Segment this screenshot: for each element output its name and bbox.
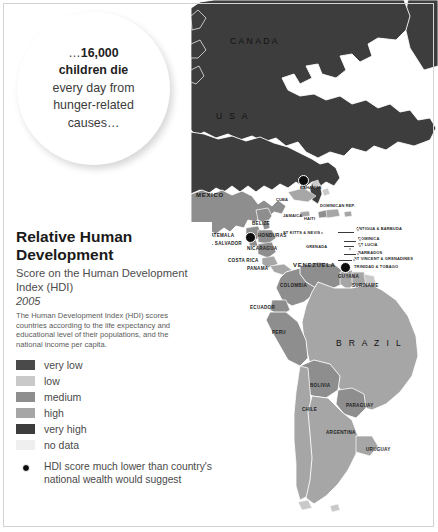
island-marker-st-kitts <box>320 231 324 235</box>
legend-label-low: low <box>44 376 60 387</box>
legend-label-very-high: very high <box>44 424 87 435</box>
country-puerto-rico <box>344 211 352 217</box>
panel-subtitle: Score on the Human Development Index (HD… <box>16 266 191 294</box>
black-dot-icon <box>22 464 30 472</box>
legend-label-medium: medium <box>44 392 81 403</box>
leader-line-dominica <box>344 241 356 242</box>
callout-line4: hunger-related <box>53 98 134 112</box>
panel-description: The Human Development Index (HDI) scores… <box>16 311 192 349</box>
callout-bubble: …16,000 children die every day from hung… <box>17 12 170 165</box>
legend-swatch-very-low <box>16 360 35 370</box>
legend-label-very-low: very low <box>44 360 83 371</box>
island-marker-st-vincent <box>352 258 356 262</box>
page-title: Relative Human Development <box>16 228 166 264</box>
island-marker-grenada <box>348 247 352 251</box>
hdi-marker-cuba <box>298 175 309 186</box>
legend-panel: Relative Human Development Score on the … <box>4 228 214 487</box>
legend-swatch-medium <box>16 392 35 402</box>
callout-ellipsis-prefix: … <box>68 46 80 60</box>
legend-label-high: high <box>44 408 64 419</box>
legend-item-no-data: no data <box>16 438 214 452</box>
legend-swatch-high <box>16 408 35 418</box>
country-jamaica <box>300 211 310 217</box>
legend-item-medium: medium <box>16 390 214 404</box>
legend-note-text: HDI score much lower than country's nati… <box>44 461 214 486</box>
hdi-marker-guatemala <box>245 232 256 243</box>
leader-line-barbados <box>344 254 356 255</box>
callout-number: 16,000 <box>81 46 119 60</box>
legend-item-very-low: very low <box>16 358 214 372</box>
island-marker-st-lucia <box>358 244 362 248</box>
legend-note-row: HDI score much lower than country's nati… <box>16 461 214 486</box>
island-marker-barbados <box>356 252 360 256</box>
callout-line5: causes… <box>68 116 120 130</box>
legend-swatch-very-high <box>16 424 35 434</box>
legend-item-low: low <box>16 374 214 388</box>
legend-swatch-low <box>16 376 35 386</box>
legend-label-no-data: no data <box>44 440 79 451</box>
legend-note-marker-wrap <box>16 461 35 472</box>
legend-item-very-high: very high <box>16 422 214 436</box>
hdi-marker-trinidad-tobago <box>340 262 351 273</box>
callout-bubble-text: …16,000 children die every day from hung… <box>25 45 163 133</box>
callout-line2: children die <box>59 63 129 77</box>
leader-line-antigua <box>338 232 354 233</box>
legend-item-high: high <box>16 406 214 420</box>
legend-swatch-no-data <box>16 440 35 450</box>
callout-line3: every day from <box>53 81 135 95</box>
panel-year: 2005 <box>16 295 214 307</box>
leader-line-st-vincent <box>338 260 352 261</box>
island-marker-antigua <box>356 228 360 232</box>
island-marker-dominica <box>358 238 362 242</box>
infographic-page: CANADA U S A MEXICO BELIZE GUATEMALA HON… <box>0 0 438 532</box>
